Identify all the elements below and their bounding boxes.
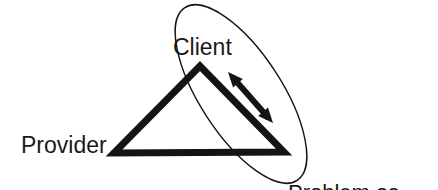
label-problem-as-client-sees-it: Problem as client sees it [288, 132, 409, 190]
label-client: Client [173, 35, 232, 61]
label-provider: Provider [21, 133, 107, 159]
diagram-canvas: Provider Client Problem as client sees i… [0, 0, 438, 190]
label-problem-line-1: Problem as [288, 181, 409, 190]
